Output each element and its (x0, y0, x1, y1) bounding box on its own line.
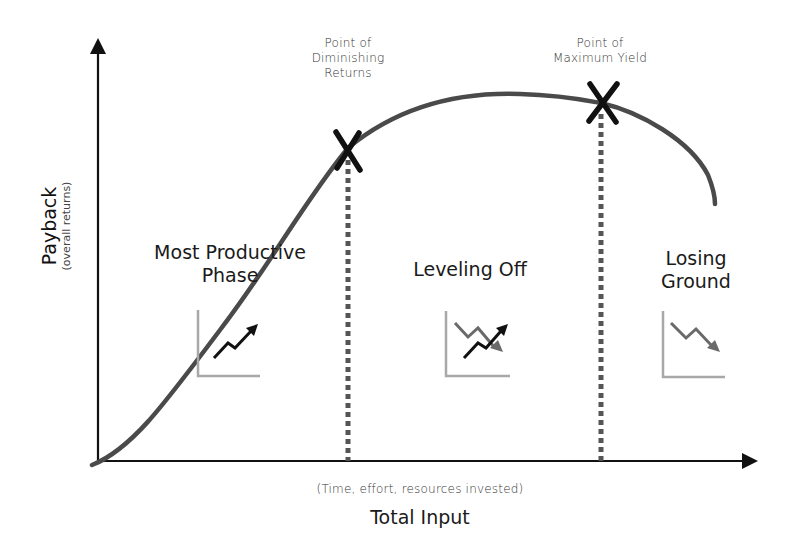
y-axis-title-main: Payback (38, 126, 60, 326)
point-diminishing-line3: Returns (290, 66, 406, 81)
point-diminishing-line2: Diminishing (290, 51, 406, 66)
phase3-line1: Losing (646, 247, 746, 270)
phase-most-productive-label: Most Productive Phase (140, 241, 320, 287)
point-max-line2: Maximum Yield (540, 51, 660, 66)
trend-down-icon (663, 311, 725, 377)
point-diminishing-returns-label: Point of Diminishing Returns (290, 36, 406, 81)
phase1-line1: Most Productive (140, 241, 320, 264)
x-axis (97, 453, 758, 469)
y-axis-title: Payback (overall returns) (38, 126, 78, 326)
phase-leveling-off-label: Leveling Off (400, 258, 540, 281)
phase-losing-ground-label: Losing Ground (646, 247, 746, 293)
point-maximum-yield-label: Point of Maximum Yield (540, 36, 660, 66)
y-axis-arrow-icon (90, 38, 106, 54)
phase1-line2: Phase (140, 264, 320, 287)
y-axis (90, 38, 106, 463)
y-axis-title-sub: (overall returns) (60, 126, 73, 326)
x-axis-arrow-icon (742, 453, 758, 469)
phase2-line1: Leveling Off (400, 258, 540, 281)
point-diminishing-line1: Point of (290, 36, 406, 51)
phase3-line2: Ground (646, 270, 746, 293)
x-axis-title: Total Input (320, 506, 520, 529)
point-max-line1: Point of (540, 36, 660, 51)
x-axis-subtitle: (Time, effort, resources invested) (270, 482, 570, 497)
trend-mixed-icon (446, 311, 510, 376)
